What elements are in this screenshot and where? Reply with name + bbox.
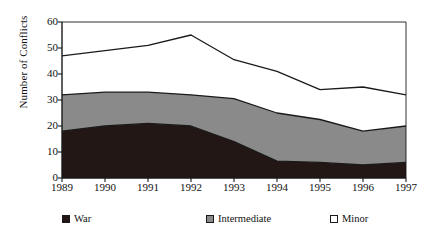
legend-label: Intermediate — [218, 213, 271, 224]
x-tick-label: 1993 — [214, 182, 254, 193]
x-tick-label: 1996 — [343, 182, 383, 193]
stacked-area-chart: Number of Conflicts 0102030405060 198919… — [0, 0, 432, 247]
x-tick-label: 1994 — [257, 182, 297, 193]
legend-label: Minor — [342, 213, 368, 224]
war-swatch — [62, 215, 70, 223]
x-tick-label: 1989 — [42, 182, 82, 193]
chart-legend: WarIntermediateMinor — [0, 213, 432, 233]
legend-item-minor: Minor — [330, 213, 368, 224]
x-tick-label: 1990 — [85, 182, 125, 193]
legend-label: War — [74, 213, 91, 224]
x-tick-label: 1995 — [300, 182, 340, 193]
x-tick-label: 1991 — [128, 182, 168, 193]
x-tick-label: 1992 — [171, 182, 211, 193]
plot-area — [0, 0, 432, 247]
x-tick-label: 1997 — [386, 182, 426, 193]
area-series-group — [62, 35, 406, 178]
x-axis-tick-labels: 198919901991199219931994199519961997 — [0, 182, 432, 202]
intermediate-swatch — [206, 215, 214, 223]
minor-swatch — [330, 215, 338, 223]
legend-item-war: War — [62, 213, 91, 224]
legend-item-intermediate: Intermediate — [206, 213, 271, 224]
